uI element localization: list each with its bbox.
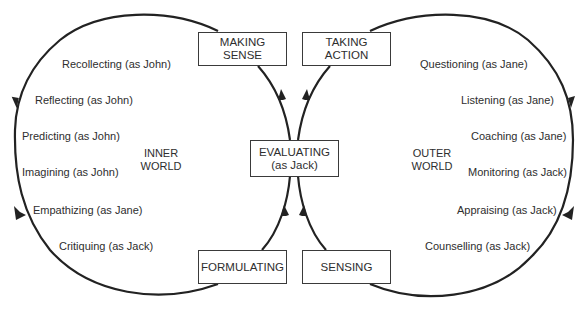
outer-activity: Listening (as Jane): [461, 94, 554, 106]
taking-action-box: TAKING ACTION: [302, 32, 391, 66]
evaluating-box: EVALUATING (as Jack): [250, 140, 339, 177]
sensing-label: SENSING: [321, 261, 373, 274]
inner-activity: Imagining (as John): [22, 166, 119, 178]
outer-world-line1: OUTER: [407, 147, 457, 160]
inner-activity: Empathizing (as Jane): [33, 204, 142, 216]
outer-loop-lower: [370, 140, 573, 296]
inner-world-line1: INNER: [136, 147, 186, 160]
evaluating-to-making-sense: [258, 66, 290, 140]
outer-activity: Counselling (as Jack): [425, 240, 530, 252]
outer-activity: Monitoring (as Jack): [468, 166, 567, 178]
outer-activity: Questioning (as Jane): [420, 58, 528, 70]
outer-world-label: OUTER WORLD: [407, 147, 457, 173]
inner-loop-upper: [15, 15, 218, 130]
formulating-box: FORMULATING: [198, 250, 287, 284]
making-sense-box: MAKING SENSE: [198, 32, 287, 66]
outer-activity: Coaching (as Jane): [471, 130, 566, 142]
inner-world-line2: WORLD: [136, 160, 186, 173]
arrow-center-up-right: [302, 89, 310, 100]
evaluating-line2: (as Jack): [271, 159, 318, 172]
evaluating-to-taking-action: [298, 66, 330, 140]
arrow-right-lower: [562, 206, 574, 220]
inner-activity: Recollecting (as John): [62, 58, 171, 70]
inner-activity: Critiquing (as Jack): [59, 240, 153, 252]
outer-activity: Appraising (as Jack): [457, 204, 557, 216]
outer-world-line2: WORLD: [407, 160, 457, 173]
outer-loop-upper: [370, 15, 573, 140]
arrow-center-up-left: [278, 89, 286, 100]
inner-world-label: INNER WORLD: [136, 147, 186, 173]
sensing-box: SENSING: [302, 250, 391, 284]
inner-activity: Reflecting (as John): [35, 94, 133, 106]
making-sense-line1: MAKING: [220, 36, 265, 49]
making-sense-line2: SENSE: [223, 49, 262, 62]
inner-activity: Predicting (as John): [22, 130, 120, 142]
formulating-label: FORMULATING: [201, 261, 284, 274]
taking-action-line2: ACTION: [325, 49, 368, 62]
arrow-left-lower: [14, 206, 26, 220]
taking-action-line1: TAKING: [326, 36, 368, 49]
evaluating-line1: EVALUATING: [259, 146, 330, 159]
